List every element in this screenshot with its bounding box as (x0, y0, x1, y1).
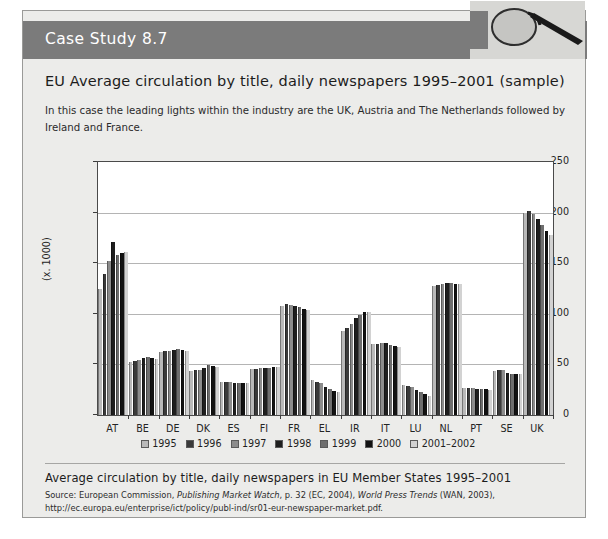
x-tick-label-de: DE (156, 423, 190, 434)
x-tick-label-lu: LU (399, 423, 433, 434)
bar-group (341, 162, 371, 415)
bar (168, 351, 172, 415)
bar (501, 370, 505, 415)
bar (393, 346, 397, 415)
bar (250, 369, 254, 415)
legend-item[interactable]: 2001–2002 (410, 438, 475, 449)
bar (402, 385, 406, 415)
intro-paragraph: In this case the leading lights within t… (45, 103, 572, 136)
case-study-page: Case Study 8.7 EU Average circulation by… (22, 10, 586, 518)
source-italic-publication-1: Publishing Market Watch (177, 490, 280, 500)
x-tick-mark (310, 415, 311, 419)
x-tick-label-fr: FR (277, 423, 311, 434)
legend: 1995199619971998199920002001–2002 (47, 438, 569, 449)
x-tick-label-ir: IR (338, 423, 372, 434)
bar (116, 255, 120, 415)
legend-label: 1997 (242, 438, 266, 449)
bar (462, 388, 466, 415)
x-tick-label-pt: PT (459, 423, 493, 434)
bar (380, 343, 384, 415)
bar-group (98, 162, 128, 415)
bar-group (371, 162, 401, 415)
x-tick-mark (492, 415, 493, 419)
bar (272, 367, 276, 415)
bar-group (159, 162, 189, 415)
chart: (x. 1000) 050100150200250 ATBEDEDKESFIFR… (47, 151, 569, 439)
bar (302, 309, 306, 415)
x-tick-label-dk: DK (186, 423, 220, 434)
legend-swatch (410, 440, 418, 448)
bar (506, 373, 510, 416)
bar (480, 389, 484, 415)
legend-item[interactable]: 1997 (231, 438, 267, 449)
x-tick-mark (341, 415, 342, 419)
chart-title: EU Average circulation by title, daily n… (45, 73, 565, 89)
bar (350, 324, 354, 415)
legend-item[interactable]: 2000 (365, 438, 401, 449)
bar (319, 383, 323, 415)
legend-swatch (141, 440, 149, 448)
legend-swatch (186, 440, 194, 448)
bar (293, 306, 297, 415)
bar (163, 351, 167, 415)
x-tick-label-se: SE (490, 423, 524, 434)
x-tick-mark (159, 415, 160, 419)
bar (328, 389, 332, 415)
bar (133, 361, 137, 415)
bar (172, 350, 176, 415)
bar (540, 225, 544, 415)
x-tick-mark (401, 415, 402, 419)
x-tick-label-uk: UK (520, 423, 554, 434)
bar-group (219, 162, 249, 415)
legend-item[interactable]: 1999 (320, 438, 356, 449)
bar (233, 383, 237, 415)
bar (311, 380, 315, 415)
figure-source: Source: European Commission, Publishing … (45, 489, 570, 514)
legend-label: 1998 (287, 438, 311, 449)
bar (315, 382, 319, 415)
bar (285, 304, 289, 415)
bar (523, 213, 527, 415)
bar-group (462, 162, 492, 415)
legend-swatch (275, 440, 283, 448)
bar (532, 214, 536, 415)
bar (545, 231, 549, 415)
magnifier-icon (470, 1, 585, 59)
bar (280, 306, 284, 415)
bar (432, 286, 436, 415)
bar (354, 318, 358, 415)
bar (510, 374, 514, 415)
legend-item[interactable]: 1998 (275, 438, 311, 449)
bar (475, 389, 479, 415)
x-tick-mark (189, 415, 190, 419)
bar (514, 374, 518, 415)
x-tick-label-at: AT (95, 423, 129, 434)
x-tick-label-el: EL (308, 423, 342, 434)
bar (419, 392, 423, 415)
bar (150, 358, 154, 415)
bar (254, 369, 258, 415)
y-axis-label: (x. 1000) (41, 237, 52, 281)
bar (111, 242, 115, 415)
bar (237, 383, 241, 415)
bar (341, 331, 345, 415)
legend-item[interactable]: 1996 (186, 438, 222, 449)
x-tick-label-it: IT (368, 423, 402, 434)
legend-item[interactable]: 1995 (141, 438, 177, 449)
bar (497, 370, 501, 415)
bar (298, 307, 302, 415)
bar (267, 368, 271, 415)
bar (371, 344, 375, 415)
bar (324, 387, 328, 415)
bar (384, 343, 388, 415)
bar (493, 371, 497, 415)
bar-group (189, 162, 219, 415)
bar (202, 368, 206, 415)
bar (410, 387, 414, 415)
bar-group (280, 162, 310, 415)
bar (445, 283, 449, 415)
bar (241, 383, 245, 415)
x-tick-mark (523, 415, 524, 419)
bar-group (401, 162, 431, 415)
bar (363, 312, 367, 415)
